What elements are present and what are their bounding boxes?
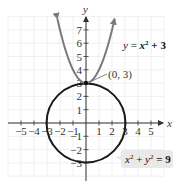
- x-tick-label: 5: [148, 125, 154, 137]
- x-tick-label: 2: [109, 125, 115, 137]
- y-tick-label: 5: [77, 51, 83, 63]
- x-tick-label: −2: [54, 125, 66, 137]
- parabola-equation-label: y = x2 + 3: [122, 39, 166, 51]
- point-label: (0, 3): [108, 68, 132, 81]
- y-tick-label: −1: [70, 130, 82, 142]
- eq-plus: +: [133, 153, 145, 165]
- y-tick-label: 4: [77, 64, 83, 76]
- y-tick-label: 2: [77, 90, 83, 102]
- x-tick-label: 1: [96, 125, 102, 137]
- y-axis-label: y: [82, 3, 88, 15]
- x-axis-label: x: [166, 117, 172, 129]
- point-leader-line: [90, 74, 107, 82]
- y-tick-label: −2: [70, 144, 82, 156]
- x-tick-label: −5: [15, 125, 27, 137]
- y-tick-label: 7: [77, 24, 83, 36]
- graph: −5−4−3−2−112345−3−2−11234567 x y (0, 3) …: [0, 0, 179, 186]
- eq-equals: = 9: [154, 153, 172, 165]
- x-tick-label: 4: [135, 125, 141, 137]
- intersection-point: [84, 81, 88, 85]
- x-tick-label: −4: [28, 125, 40, 137]
- y-tick-label: 6: [77, 37, 83, 49]
- y-tick-label: 1: [77, 104, 83, 116]
- eq-equals: =: [128, 39, 140, 51]
- eq-rest: + 3: [149, 39, 167, 51]
